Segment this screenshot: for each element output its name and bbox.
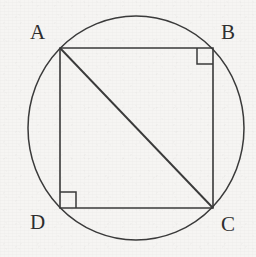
vertex-label-b: B bbox=[221, 22, 235, 43]
geometry-figure-canvas: A B C D bbox=[0, 0, 256, 257]
diagonal-AC bbox=[60, 48, 213, 208]
right-angle-mark-B bbox=[197, 48, 213, 64]
right-angle-mark-D bbox=[60, 192, 76, 208]
vertex-label-a: A bbox=[30, 22, 45, 43]
vertex-label-d: D bbox=[30, 212, 45, 233]
vertex-label-c: C bbox=[221, 214, 235, 235]
